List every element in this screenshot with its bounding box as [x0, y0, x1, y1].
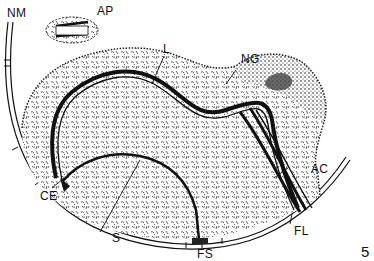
label-AC: AC	[311, 163, 328, 175]
figure-number: 5	[361, 244, 369, 259]
label-NG: NG	[241, 53, 260, 65]
node-FS	[192, 238, 208, 244]
label-CE: CE	[40, 190, 57, 202]
label-NM: NM	[7, 7, 26, 19]
label-AP: AP	[97, 5, 114, 17]
structure-AP	[46, 17, 98, 43]
label-S: S	[112, 232, 120, 244]
label-FS: FS	[197, 248, 213, 260]
diagram-figure	[0, 0, 374, 261]
label-FL: FL	[294, 225, 309, 237]
label-L: L	[163, 43, 170, 55]
